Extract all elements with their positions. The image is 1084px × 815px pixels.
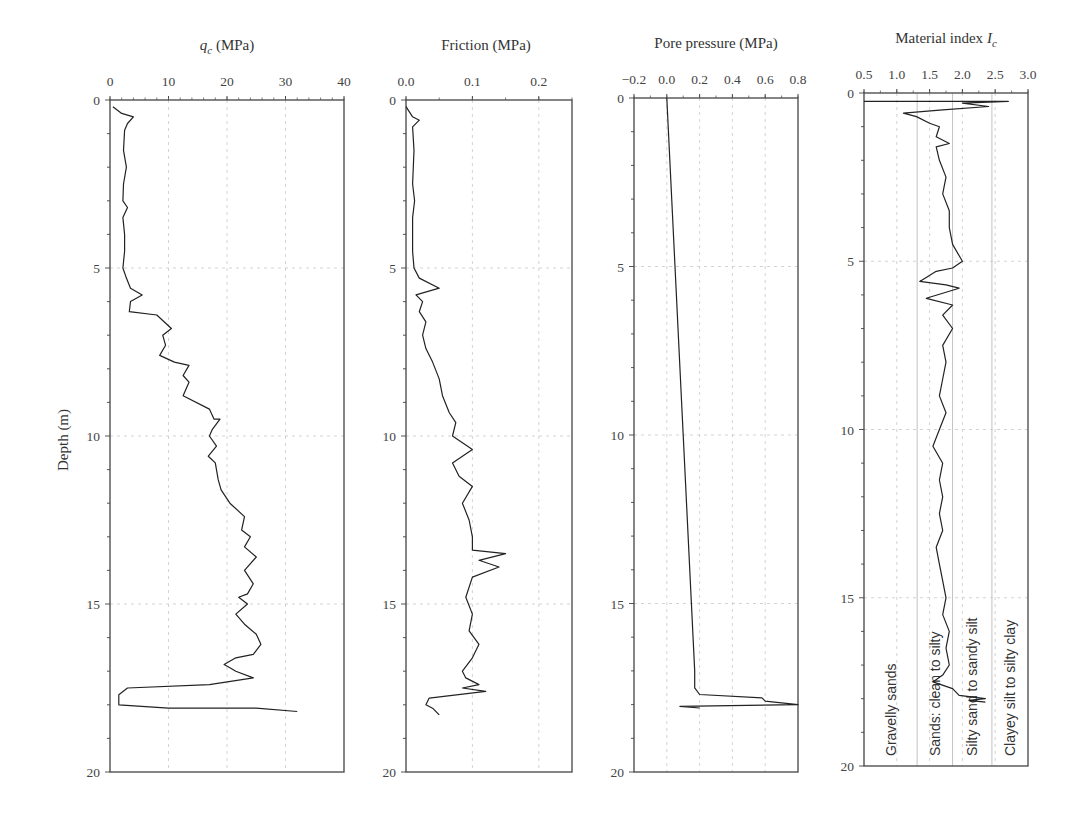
y-tick-label: 15 (841, 591, 855, 606)
x-tick-label: 0 (107, 74, 114, 89)
x-tick-label: 0.0 (658, 72, 675, 87)
x-tick-label: 0.2 (691, 72, 708, 87)
x-tick-label: 20 (220, 74, 234, 89)
data-curve (113, 107, 297, 712)
y-tick-label: 15 (383, 597, 397, 612)
y-tick-label: 10 (383, 429, 397, 444)
x-tick-label: −0.2 (622, 72, 647, 87)
cpt-profile-figure: Depth (m) qc (MPa)01020304005101520Frict… (0, 0, 1084, 815)
zone-label: Silty sand to sandy silt (964, 617, 980, 756)
x-tick-label: 2.0 (954, 67, 971, 82)
x-tick-label: 0.8 (790, 72, 807, 87)
x-tick-label: 1.0 (888, 67, 905, 82)
x-tick-label: 0.5 (856, 67, 873, 82)
data-curve (864, 101, 1008, 702)
depth-axis-label: Depth (m) (55, 409, 72, 471)
panel-title: Pore pressure (MPa) (654, 35, 777, 52)
friction-panel: Friction (MPa)0.00.10.205101520 (383, 37, 573, 780)
pore-pressure-panel: Pore pressure (MPa)−0.20.00.20.40.60.805… (611, 35, 807, 780)
x-tick-label: 10 (162, 74, 176, 89)
x-tick-label: 40 (337, 74, 351, 89)
y-tick-label: 5 (617, 260, 624, 275)
y-tick-label: 0 (847, 86, 854, 101)
qc-panel: qc (MPa)01020304005101520 (87, 37, 352, 780)
y-tick-label: 20 (383, 765, 397, 780)
y-tick-label: 0 (93, 93, 100, 108)
panel-title: qc (MPa) (200, 37, 254, 56)
x-tick-label: 0.4 (724, 72, 741, 87)
plot-frame (634, 98, 798, 772)
y-tick-label: 5 (93, 261, 100, 276)
material-index-panel: Material index IcGravelly sandsSands: cl… (841, 30, 1037, 774)
x-tick-label: 0.0 (398, 74, 415, 89)
zone-label: Gravelly sands (883, 663, 899, 756)
y-tick-label: 5 (389, 261, 396, 276)
y-tick-label: 0 (389, 93, 396, 108)
y-tick-label: 15 (87, 597, 101, 612)
panel-title: Friction (MPa) (441, 37, 531, 54)
y-tick-label: 20 (841, 759, 855, 774)
data-curve (406, 107, 506, 715)
y-tick-label: 20 (87, 765, 101, 780)
y-tick-label: 5 (847, 254, 854, 269)
y-tick-label: 15 (611, 597, 625, 612)
y-tick-label: 10 (87, 429, 101, 444)
y-tick-label: 20 (611, 765, 625, 780)
x-tick-label: 2.5 (987, 67, 1004, 82)
y-tick-label: 0 (617, 91, 624, 106)
panels: qc (MPa)01020304005101520Friction (MPa)0… (87, 30, 1037, 780)
x-tick-label: 3.0 (1020, 67, 1037, 82)
x-tick-label: 0.1 (464, 74, 481, 89)
panel-title: Material index Ic (895, 30, 997, 49)
x-tick-label: 30 (279, 74, 293, 89)
x-tick-label: 0.6 (757, 72, 774, 87)
x-tick-label: 0.2 (530, 74, 547, 89)
x-tick-label: 1.5 (921, 67, 938, 82)
y-tick-label: 10 (611, 428, 625, 443)
y-tick-label: 10 (841, 423, 855, 438)
zone-label: Clayey silt to silty clay (1002, 620, 1018, 756)
